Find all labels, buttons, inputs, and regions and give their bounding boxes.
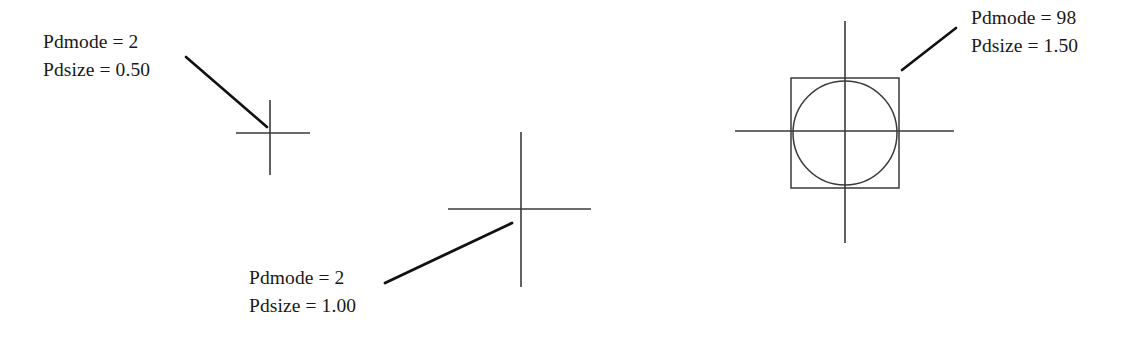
leader-line-left	[186, 57, 267, 127]
annotation-left-pdsize: Pdsize = 0.50	[43, 56, 150, 84]
leader-line-right	[902, 28, 956, 70]
annotation-left: Pdmode = 2 Pdsize = 0.50	[43, 28, 150, 84]
annotation-middle-pdsize: Pdsize = 1.00	[249, 292, 356, 320]
middle-point-marker-group	[448, 132, 591, 287]
annotation-right-pdsize: Pdsize = 1.50	[971, 32, 1078, 60]
annotation-middle: Pdmode = 2 Pdsize = 1.00	[249, 264, 356, 320]
annotation-right-pdmode: Pdmode = 98	[971, 4, 1078, 32]
annotation-middle-pdmode: Pdmode = 2	[249, 264, 356, 292]
figure-canvas: Pdmode = 2 Pdsize = 0.50 Pdmode = 2 Pdsi…	[0, 0, 1128, 352]
leader-line-middle	[385, 223, 512, 283]
annotation-left-pdmode: Pdmode = 2	[43, 28, 150, 56]
annotation-right: Pdmode = 98 Pdsize = 1.50	[971, 4, 1078, 60]
point-style-diagram	[0, 0, 1128, 352]
